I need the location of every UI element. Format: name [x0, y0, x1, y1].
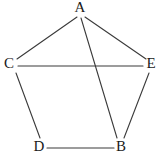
vertex-label-b: B: [116, 138, 126, 154]
vertex-label-e: E: [146, 55, 155, 71]
graph-figure: ACEDB: [0, 0, 159, 157]
node-layer: ACEDB: [4, 0, 156, 154]
graph-edge-a-b: [81, 18, 117, 138]
graph-canvas: ACEDB: [0, 0, 159, 157]
graph-edge-a-c: [17, 17, 77, 59]
graph-edge-a-e: [85, 17, 146, 59]
vertex-label-d: D: [34, 138, 45, 154]
edge-layer: [16, 17, 149, 148]
graph-edge-b-e: [124, 73, 149, 138]
graph-edge-c-d: [16, 73, 40, 138]
vertex-label-a: A: [75, 0, 86, 15]
vertex-label-c: C: [4, 55, 14, 71]
